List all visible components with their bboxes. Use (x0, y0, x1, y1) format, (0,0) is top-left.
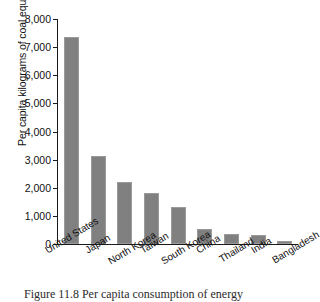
bar (171, 207, 186, 244)
bar (117, 182, 132, 244)
y-tick-mark (53, 103, 57, 104)
y-tick-mark (53, 47, 57, 48)
y-tick-label: 3,000 (25, 154, 51, 166)
y-tick-mark (53, 216, 57, 217)
y-tick-mark (53, 19, 57, 20)
y-tick-mark (53, 132, 57, 133)
y-tick-mark (53, 75, 57, 76)
y-tick-mark (53, 160, 57, 161)
y-tick-label: 2,000 (25, 182, 51, 194)
x-axis-labels: United StatesJapanNorth KoreaTaiwanSouth… (57, 246, 303, 290)
y-tick-label: 6,000 (25, 69, 51, 81)
y-tick-label: 8,000 (25, 13, 51, 25)
bar-series (58, 19, 298, 244)
figure-caption: Figure 11.8 Per capita consumption of en… (24, 287, 314, 302)
y-tick-mark (53, 188, 57, 189)
bar (91, 156, 106, 244)
y-tick-label: 7,000 (25, 41, 51, 53)
y-tick-label: 1,000 (25, 210, 51, 222)
bar (64, 37, 79, 244)
y-tick-label: 4,000 (25, 126, 51, 138)
y-tick-label: 5,000 (25, 97, 51, 109)
plot-area: 8,0007,0006,0005,0004,0003,0002,0001,000… (57, 19, 298, 244)
